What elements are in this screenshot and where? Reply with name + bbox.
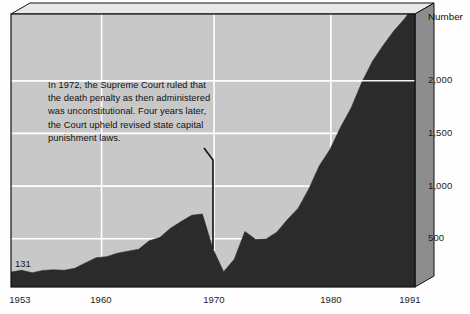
x-tick-label-1953: 1953 — [0, 294, 40, 305]
y-tick-label-2000: 2,000 — [428, 74, 452, 85]
y-tick-label-1000: 1,000 — [428, 180, 452, 191]
annotation-line-3: was unconstitutional. Four years later, — [48, 105, 240, 118]
x-tick-label-1991: 1991 — [389, 294, 431, 305]
annotation-line-5: punishment laws. — [48, 132, 240, 145]
annotation-line-4: the Court upheld revised state capital — [48, 119, 240, 132]
chart-figure: Number 2,000 1,500 1,000 500 1953 1960 1… — [0, 0, 470, 314]
y-tick-label-500: 500 — [428, 232, 444, 243]
bevel-right-face — [415, 3, 434, 287]
annotation-line-2: the death penalty as then administered — [48, 92, 240, 105]
y-axis-title: Number — [428, 11, 463, 22]
x-tick-label-1960: 1960 — [80, 294, 122, 305]
bevel-top-face — [11, 3, 434, 14]
x-tick-label-1980: 1980 — [310, 294, 352, 305]
first-value-label: 131 — [15, 258, 31, 269]
chart-canvas — [0, 0, 470, 314]
annotation-line-1: In 1972, the Supreme Court ruled that — [48, 79, 240, 92]
chart-annotation: In 1972, the Supreme Court ruled that th… — [48, 79, 240, 145]
x-tick-label-1970: 1970 — [193, 294, 235, 305]
y-tick-label-1500: 1,500 — [428, 127, 452, 138]
